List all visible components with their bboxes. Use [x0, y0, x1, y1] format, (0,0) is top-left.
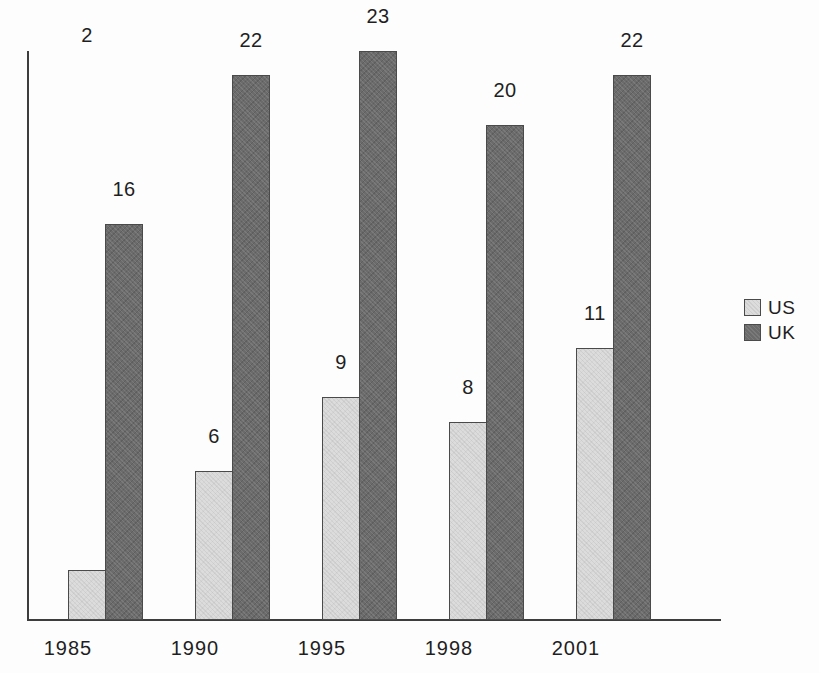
value-label-us-1990: 6 [195, 426, 233, 446]
value-label-us-1998: 8 [449, 377, 487, 397]
bar-uk-2001 [613, 75, 651, 620]
bar-uk-1990 [232, 75, 270, 620]
bar-uk-1995 [359, 51, 397, 620]
x-tick-label-1995: 1995 [267, 636, 377, 660]
x-tick-label-2001: 2001 [521, 636, 631, 660]
legend-swatch-us-icon [744, 299, 761, 316]
value-label-uk-2001: 22 [613, 30, 651, 50]
x-tick-label-1998: 1998 [394, 636, 504, 660]
value-label-uk-1995: 23 [359, 6, 397, 26]
bar-group-1985: 2 16 [68, 51, 144, 620]
bar-us-1998 [449, 422, 487, 620]
bar-group-2001: 11 22 [576, 51, 652, 620]
x-tick-label-1985: 1985 [13, 636, 123, 660]
legend-label-uk: UK [768, 323, 795, 342]
legend-swatch-uk-icon [744, 324, 761, 341]
value-label-us-1995: 9 [322, 352, 360, 372]
x-tick-label-1990: 1990 [140, 636, 250, 660]
bar-chart: 2 16 6 22 9 23 8 20 11 [0, 0, 819, 673]
value-label-us-1985: 2 [68, 25, 106, 45]
bar-uk-1998 [486, 125, 524, 620]
value-label-uk-1990: 22 [232, 30, 270, 50]
plot-area: 2 16 6 22 9 23 8 20 11 [27, 51, 721, 620]
value-label-us-2001: 11 [576, 303, 614, 323]
bar-uk-1985 [105, 224, 143, 620]
value-label-uk-1998: 20 [486, 80, 524, 100]
bar-us-1985 [68, 570, 106, 620]
bar-group-1990: 6 22 [195, 51, 271, 620]
bar-us-2001 [576, 348, 614, 620]
value-label-uk-1985: 16 [105, 179, 143, 199]
legend-item-us: US [744, 295, 795, 320]
bar-group-1998: 8 20 [449, 51, 525, 620]
chart-legend: US UK [744, 295, 795, 345]
legend-item-uk: UK [744, 320, 795, 345]
bar-group-1995: 9 23 [322, 51, 398, 620]
bar-us-1990 [195, 471, 233, 620]
bar-us-1995 [322, 397, 360, 620]
legend-label-us: US [768, 298, 795, 317]
